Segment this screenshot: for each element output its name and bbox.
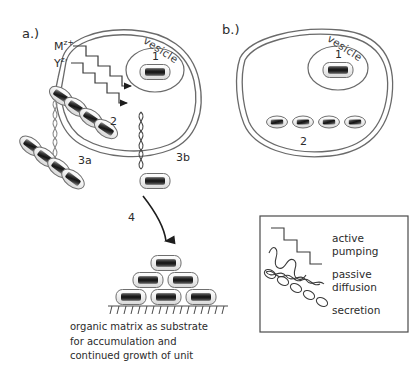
panel-a-secreted-unit-3b (140, 174, 170, 189)
panel-a-number-3a: 3a (78, 154, 92, 168)
legend-active-pumping-line1: active (332, 232, 378, 245)
legend-passive-diffusion-line1: passive (332, 268, 377, 281)
caption-line-2: for accumulation and (70, 335, 208, 350)
panel-a-number-1: 1 (152, 50, 159, 64)
panel-a-cell-membrane (56, 30, 201, 157)
panel-b-unit-row (267, 116, 366, 128)
caption-line-3: continued growth of unit (70, 349, 208, 364)
legend-active-pumping-line2: pumping (332, 245, 378, 258)
panel-a-number-4: 4 (128, 211, 135, 225)
legend-item-secretion: secretion (332, 304, 380, 317)
panel-a-number-3b: 3b (176, 151, 190, 165)
panel-a-label: a.) (22, 26, 39, 42)
caption-line-1: organic matrix as substrate (70, 320, 208, 335)
panel-b-number-2: 2 (300, 135, 307, 149)
organic-matrix-substrate (108, 306, 228, 314)
figure-canvas: a.) b.) Mz+ Yz- vesicle 1 2 3a 3b 4 vesi… (0, 0, 412, 371)
cation-base: M (54, 40, 64, 53)
anion-base: Y (54, 57, 61, 70)
panel-b-label: b.) (222, 22, 239, 38)
legend-item-active-pumping: active pumping (332, 232, 378, 258)
legend-secretion-line1: secretion (332, 304, 380, 317)
panel-a-secretion-helix (139, 112, 143, 169)
anion-label: Yz- (54, 55, 67, 70)
legend-item-passive-diffusion: passive diffusion (332, 268, 377, 294)
cation-charge: z+ (64, 38, 74, 47)
figure-caption: organic matrix as substrate for accumula… (70, 320, 208, 364)
legend-passive-diffusion-line2: diffusion (332, 281, 377, 294)
active-pumping-paths (71, 46, 131, 103)
unit-pyramid (116, 256, 216, 305)
panel-b-number-1: 1 (335, 48, 342, 62)
panel-a-number-2: 2 (110, 115, 117, 129)
cation-label: Mz+ (54, 38, 74, 53)
deposition-arrow-4 (143, 196, 166, 241)
panel-b-cell-membrane (237, 29, 393, 157)
anion-charge: z- (61, 55, 68, 64)
